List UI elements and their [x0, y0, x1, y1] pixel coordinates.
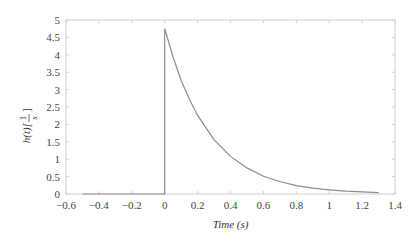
- x-tick-label: −0.2: [122, 199, 142, 211]
- y-axis-ticks: 00.511.522.533.544.55: [46, 14, 395, 200]
- y-tick-label: 0: [55, 188, 61, 200]
- x-tick-label: 0.4: [224, 199, 238, 211]
- y-tick-label: 1: [55, 153, 61, 165]
- x-tick-label: 1: [326, 199, 332, 211]
- y-tick-label: 4: [55, 49, 61, 61]
- y-axis-title-main: h(t)[: [20, 122, 33, 143]
- x-tick-label: −0.6: [56, 199, 76, 211]
- plot-frame: [66, 20, 395, 194]
- y-tick-label: 2.5: [46, 101, 60, 113]
- y-tick-label: 2: [55, 118, 61, 130]
- impulse-response-chart: −0.6−0.4−0.200.20.40.60.811.21.4 00.511.…: [0, 0, 413, 243]
- x-tick-label: −0.4: [89, 199, 109, 211]
- x-axis-ticks: −0.6−0.4−0.200.20.40.60.811.21.4: [56, 20, 402, 211]
- x-tick-label: 1.2: [355, 199, 369, 211]
- x-tick-label: 1.4: [388, 199, 402, 211]
- y-tick-label: 0.5: [46, 171, 60, 183]
- x-tick-label: 0.6: [257, 199, 271, 211]
- y-tick-label: 3.5: [46, 66, 60, 78]
- y-tick-label: 1.5: [46, 136, 60, 148]
- y-axis-title-denominator: s: [29, 116, 39, 120]
- x-tick-label: 0.8: [289, 199, 303, 211]
- x-tick-label: 0: [162, 199, 168, 211]
- y-axis-title: h(t)[1s]: [18, 108, 39, 143]
- x-tick-label: 0.2: [191, 199, 205, 211]
- y-tick-label: 4.5: [46, 31, 60, 43]
- y-tick-label: 5: [55, 14, 61, 26]
- y-axis-title-numerator: 1: [18, 116, 28, 121]
- y-tick-label: 3: [55, 84, 61, 96]
- y-axis-title-close: ]: [20, 108, 32, 112]
- x-axis-title: Time (s): [213, 218, 249, 231]
- impulse-response-line: [82, 29, 378, 194]
